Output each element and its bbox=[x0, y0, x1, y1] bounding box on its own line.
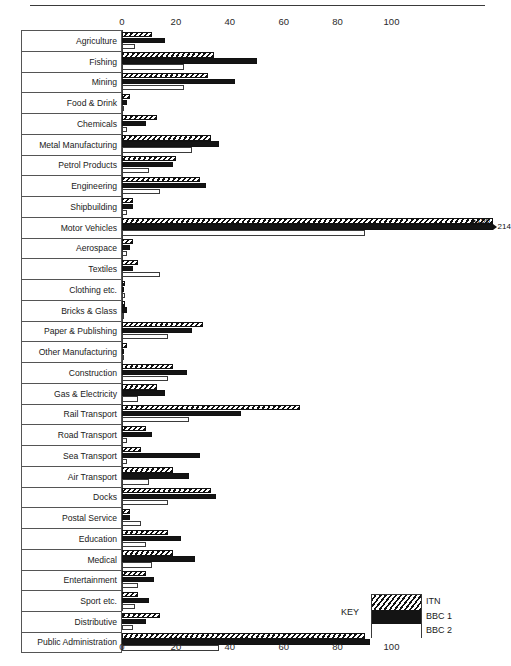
category-label: Postal Service bbox=[21, 507, 122, 528]
x-tick-label: 20 bbox=[171, 16, 182, 28]
bar-group-row bbox=[122, 196, 495, 217]
bar-bbc1 bbox=[122, 370, 187, 375]
x-tick-label: 100 bbox=[384, 16, 400, 28]
bar-group-row bbox=[122, 487, 495, 508]
category-label: Clothing etc. bbox=[21, 279, 122, 300]
bar-bbc2 bbox=[122, 479, 149, 484]
category-label: Engineering bbox=[21, 175, 122, 196]
bar-bbc2 bbox=[122, 168, 149, 173]
bar-bbc2 bbox=[122, 147, 192, 152]
bar-bbc1 bbox=[122, 432, 152, 437]
value-callout: 214 bbox=[493, 223, 511, 231]
category-label: Entertainment bbox=[21, 570, 122, 591]
bar-bbc2 bbox=[122, 583, 138, 588]
legend-swatch-itn bbox=[372, 595, 421, 610]
bar-group-row bbox=[122, 51, 495, 72]
bar-group-row bbox=[122, 92, 495, 113]
bar-itn bbox=[122, 488, 211, 493]
x-tick-label: 0 bbox=[119, 641, 124, 653]
bar-bbc2 bbox=[122, 376, 168, 381]
bar-group-row bbox=[122, 570, 495, 591]
bar-itn bbox=[122, 384, 157, 389]
bar-bbc1 bbox=[122, 58, 257, 63]
bar-itn bbox=[122, 343, 127, 348]
bar-bbc1 bbox=[122, 121, 146, 126]
bar-bbc2 bbox=[122, 396, 138, 401]
category-label: Motor Vehicles bbox=[21, 217, 122, 238]
bar-itn bbox=[122, 530, 168, 535]
plot-area: 196214 bbox=[122, 30, 495, 611]
value-callout: 196 bbox=[472, 217, 490, 225]
bar-itn bbox=[122, 447, 141, 452]
bar-bbc2 bbox=[122, 542, 146, 547]
bar-bbc1 bbox=[122, 328, 192, 333]
bar-group-row bbox=[122, 404, 495, 425]
bar-bbc2 bbox=[122, 251, 127, 256]
bar-bbc1 bbox=[122, 224, 493, 229]
bar-itn bbox=[122, 115, 157, 120]
category-label: Distributive bbox=[21, 611, 122, 632]
legend-label-bbc2: BBC 2 bbox=[426, 623, 486, 638]
bar-group-row bbox=[122, 424, 495, 445]
bar-itn bbox=[122, 592, 138, 597]
legend-swatches bbox=[371, 594, 422, 638]
category-label: Bricks & Glass bbox=[21, 300, 122, 321]
bar-bbc1 bbox=[122, 453, 200, 458]
x-tick-label: 40 bbox=[225, 16, 236, 28]
bar-bbc2 bbox=[122, 127, 127, 132]
bar-bbc2 bbox=[122, 417, 189, 422]
bar-group-row bbox=[122, 549, 495, 570]
category-label: Sea Transport bbox=[21, 445, 122, 466]
x-axis-bottom: 020406080100 bbox=[0, 641, 495, 653]
bar-itn bbox=[122, 239, 133, 244]
legend: KEY ITN BBC 1 BBC 2 bbox=[341, 592, 491, 640]
category-label: Sport etc. bbox=[21, 590, 122, 611]
category-label: Textiles bbox=[21, 258, 122, 279]
bar-bbc1 bbox=[122, 577, 154, 582]
bar-bbc1 bbox=[122, 307, 127, 312]
callout-arrow-icon bbox=[472, 218, 476, 224]
bar-itn bbox=[122, 135, 211, 140]
category-label: Paper & Publishing bbox=[21, 321, 122, 342]
bar-bbc2 bbox=[122, 64, 184, 69]
bar-bbc1 bbox=[122, 598, 149, 603]
category-label: Gas & Electricity bbox=[21, 383, 122, 404]
legend-label-itn: ITN bbox=[426, 594, 486, 609]
bar-bbc1 bbox=[122, 245, 130, 250]
x-tick-label: 40 bbox=[225, 641, 236, 653]
bar-group-row bbox=[122, 155, 495, 176]
x-axis-top: 020406080100 bbox=[0, 16, 495, 28]
category-label: Agriculture bbox=[21, 30, 122, 51]
bar-group-row bbox=[122, 279, 495, 300]
bar-bbc1 bbox=[122, 183, 206, 188]
category-label: Food & Drink bbox=[21, 92, 122, 113]
bar-itn bbox=[122, 405, 300, 410]
bar-itn bbox=[122, 32, 152, 37]
bar-bbc2 bbox=[122, 293, 125, 298]
category-label: Road Transport bbox=[21, 424, 122, 445]
bar-itn bbox=[122, 467, 173, 472]
bar-bbc2 bbox=[122, 438, 127, 443]
category-label: Docks bbox=[21, 487, 122, 508]
bar-bbc1 bbox=[122, 38, 165, 43]
bar-group-row bbox=[122, 258, 495, 279]
bar-bbc1 bbox=[122, 141, 219, 146]
bar-bbc1 bbox=[122, 162, 173, 167]
bar-itn bbox=[122, 198, 133, 203]
bar-bbc2 bbox=[122, 313, 124, 318]
bar-bbc1 bbox=[122, 473, 189, 478]
category-label: Aerospace bbox=[21, 238, 122, 259]
bar-bbc1 bbox=[122, 556, 195, 561]
bar-bbc2 bbox=[122, 106, 124, 111]
bar-group-row bbox=[122, 362, 495, 383]
category-label: Shipbuilding bbox=[21, 196, 122, 217]
bar-group-row bbox=[122, 445, 495, 466]
bar-itn bbox=[122, 571, 146, 576]
category-label: Medical bbox=[21, 549, 122, 570]
bar-bbc2 bbox=[122, 189, 160, 194]
bar-group-row bbox=[122, 466, 495, 487]
legend-key-labels: ITN BBC 1 BBC 2 bbox=[426, 594, 486, 638]
bar-bbc1 bbox=[122, 349, 124, 354]
bar-group-row bbox=[122, 300, 495, 321]
